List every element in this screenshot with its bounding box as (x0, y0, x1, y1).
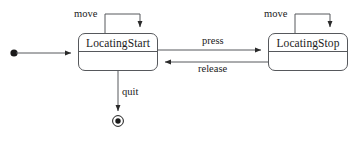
transition-press-label: press (202, 35, 224, 47)
transition-move-start-path (105, 14, 140, 33)
state-locating-stop[interactable]: LocatingStop (268, 33, 348, 71)
transition-move-stop-path (295, 14, 330, 33)
state-locating-stop-label: LocatingStop (269, 36, 347, 50)
transition-move-start-label: move (74, 8, 97, 20)
transition-quit-label: quit (122, 86, 138, 98)
state-locating-start[interactable]: LocatingStart (78, 33, 158, 71)
state-locating-stop-divider (269, 51, 347, 52)
transition-move-stop-label: move (264, 8, 287, 20)
state-diagram-canvas: LocatingStart LocatingStop move press re… (0, 0, 359, 141)
state-locating-start-label: LocatingStart (79, 36, 157, 50)
final-state-dot (115, 118, 120, 123)
state-locating-start-divider (79, 51, 157, 52)
transition-release-label: release (198, 63, 227, 75)
